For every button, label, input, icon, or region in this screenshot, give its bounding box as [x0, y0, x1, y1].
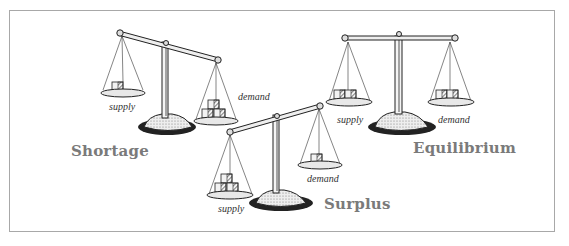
shortage-supply-label: supply: [109, 101, 135, 112]
shortage-demand-label: demand: [238, 91, 270, 102]
equilibrium-demand-label: demand: [438, 114, 470, 125]
equilibrium-label: Equilibrium: [413, 139, 516, 157]
shortage-scale: [101, 30, 238, 135]
surplus-demand-label: demand: [307, 173, 339, 184]
balance-scales-illustration: [0, 0, 569, 246]
surplus-label: Surplus: [324, 195, 391, 213]
shortage-label: Shortage: [71, 142, 149, 160]
surplus-supply-label: supply: [218, 203, 244, 214]
equilibrium-supply-label: supply: [337, 114, 363, 125]
